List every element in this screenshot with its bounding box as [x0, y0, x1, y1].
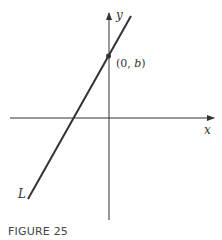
point-label: (0, b) — [116, 57, 146, 70]
x-axis-label: x — [204, 123, 211, 137]
line-L — [28, 16, 131, 199]
y-axis-label: y — [115, 8, 123, 22]
y-intercept-point — [106, 54, 111, 59]
graph-figure: y x L (0, b) — [0, 0, 222, 240]
line-label: L — [17, 187, 26, 201]
figure-caption: FIGURE 25 — [8, 225, 68, 238]
